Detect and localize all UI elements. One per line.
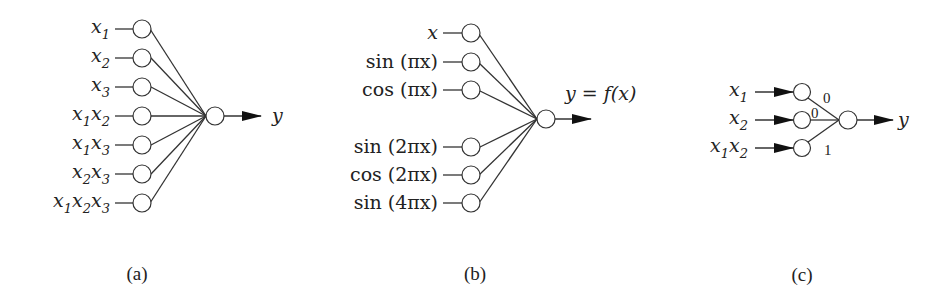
panel-b-input-stubs [443,33,462,203]
panel-c-input-label-3: x1x2 [710,134,748,161]
panel-b: y = f(x) x sin (πx) cos (πx) sin (2πx) c… [350,21,636,285]
panel-a-output-label: y [271,104,283,126]
panel-b-output-label: y = f(x) [564,82,636,104]
panel-b-output-node [537,110,555,128]
panel-a-input-label-7: x1x2x3 [53,189,110,216]
panel-a-input-label-2: x2 [91,44,110,71]
panel-c-output-node [839,111,857,129]
panel-c-input-node-2 [794,112,811,129]
panel-b-input-label-2: sin (πx) [366,50,438,72]
panel-a-input-node-5 [133,136,151,154]
panel-a: y x1 x2 x3 x1x2 x1x3 x2x3 x1x2x3 (a) [53,15,283,285]
panel-a-input-node-4 [133,107,151,125]
panel-a-input-label-6: x2x3 [72,160,110,187]
functional-link-network-figure: y x1 x2 x3 x1x2 x1x3 x2x3 x1x2x3 (a) [0,0,946,307]
panel-b-input-node-1 [462,24,480,42]
panel-a-edges [150,29,206,203]
panel-b-input-node-6 [462,194,480,212]
panel-b-input-node-5 [462,166,480,184]
panel-b-input-node-4 [462,138,480,156]
panel-b-input-node-3 [462,81,480,99]
panel-a-input-node-6 [133,165,151,183]
panel-a-input-node-7 [133,194,151,212]
panel-c-input-label-2: x2 [729,106,748,133]
panel-b-input-label-3: cos (πx) [362,78,438,100]
panel-a-input-label-1: x1 [91,15,110,42]
panel-b-caption: (b) [464,263,486,285]
panel-c-output-label: y [897,108,909,130]
panel-a-input-label-3: x3 [91,73,110,100]
panel-a-caption: (a) [126,263,147,285]
panel-a-input-node-3 [133,78,151,96]
panel-a-input-label-4: x1x2 [72,102,110,129]
panel-b-input-label-4: sin (2πx) [354,135,438,157]
panel-c-input-label-1: x1 [729,78,748,105]
panel-a-input-node-2 [133,49,151,67]
panel-c-input-node-1 [794,84,811,101]
panel-c-input-node-3 [794,140,811,157]
panel-c-caption: (c) [791,264,812,286]
panel-a-input-label-5: x1x3 [72,131,110,158]
panel-c: 0 0 1 y x1 x2 x1x2 (c) [710,78,909,286]
panel-b-edges [479,34,537,203]
panel-c-weight-1: 0 [823,90,831,106]
panel-a-input-node-1 [133,20,151,38]
panel-c-weight-2: 0 [811,105,819,121]
panel-c-weight-3: 1 [824,142,832,158]
panel-b-input-node-2 [462,53,480,71]
panel-a-input-stubs [115,29,133,203]
panel-b-input-label-5: cos (2πx) [350,163,438,185]
panel-a-output-node [206,107,224,125]
panel-b-input-label-6: sin (4πx) [354,191,438,213]
panel-b-input-label-1: x [427,21,438,43]
